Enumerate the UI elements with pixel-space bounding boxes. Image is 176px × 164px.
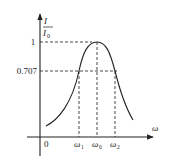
resonance-curve-diagram: I I 0 1 0.707 0 ω 1 ω 0 ω 2 ω [0, 0, 176, 164]
y-tick-1: 1 [31, 37, 36, 47]
x-tick-w1: ω [74, 139, 80, 149]
x-tick-w2: ω [110, 139, 116, 149]
x-tick-w2-sub: 2 [117, 144, 120, 150]
resonance-curve [46, 42, 133, 126]
x-tick-w0: ω [92, 139, 98, 149]
x-tick-w1-sub: 1 [81, 144, 84, 150]
x-tick-w0-sub: 0 [99, 144, 102, 150]
y-axis-label-numerator: I [43, 16, 48, 26]
x-axis-label: ω [152, 123, 158, 133]
y-axis-label-denominator-sub: 0 [47, 33, 50, 39]
y-tick-0707: 0.707 [17, 66, 38, 76]
origin-label: 0 [44, 139, 49, 149]
